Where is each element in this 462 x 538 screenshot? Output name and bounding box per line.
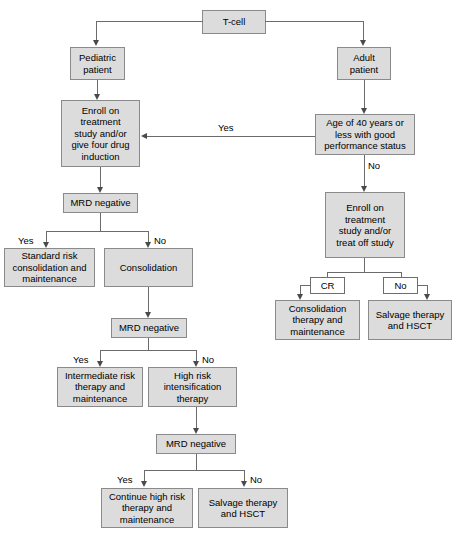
node-intermediate-risk: Intermediate risk therapy and maintenanc… [57,367,143,407]
node-mrd-negative-3: MRD negative [156,434,236,454]
edge-pediatric-to-enroll [97,80,98,94]
edge-mrd3-bus [144,470,244,471]
arrow-mrd3-no [241,481,247,487]
edge-label-yes-mrd2: Yes [73,355,89,365]
edge-cr-out [300,285,310,286]
edge-enroll-adult-stem [364,258,365,272]
edge-age40-yes-to-enroll [147,136,315,137]
node-t-cell: T-cell [202,10,266,34]
edge-consolidation-to-mrd2 [148,287,149,312]
edge-label-no-mrd3: No [250,475,262,485]
edge-no-down [427,285,428,294]
arrow-mrd3-yes [141,481,147,487]
edge-adult-decision-bus [327,272,401,273]
edge-mrd1-stem [100,213,101,231]
edge-mrd2-no-drop [196,350,197,361]
edge-label-yes-age: Yes [218,123,234,133]
edge-highrisk-to-mrd3 [196,407,197,428]
edge-enroll-to-mrd1 [100,167,101,187]
arrow-to-adult [360,40,366,46]
edge-label-no-mrd1: No [154,236,166,246]
node-standard-risk: Standard risk consolidation and maintena… [4,248,95,287]
edge-label-yes-mrd1: Yes [18,236,34,246]
node-salvage-therapy-1: Salvage therapy and HSCT [368,300,452,340]
arrow-to-pediatric [93,40,99,46]
node-pediatric-patient: Pediatric patient [70,47,125,80]
edge-tcell-right-bus [265,21,363,22]
edge-mrd1-no-drop [148,231,149,242]
edge-no-out [418,285,427,286]
node-consolidation-therapy: Consolidation therapy and maintenance [275,300,360,340]
edge-tcell-right-drop [363,21,364,40]
node-mrd-negative-2: MRD negative [111,318,187,338]
node-enroll-pediatric: Enroll on treatment study and/or give fo… [61,100,140,167]
edge-mrd3-yes-drop [144,470,145,481]
node-no: No [383,277,418,294]
edge-label-no-mrd2: No [202,355,214,365]
flowchart-canvas: T-cell Pediatric patient Adult patient E… [0,0,462,538]
edge-tcell-left-drop [96,21,97,40]
edge-cr-down [300,285,301,294]
arrow-yes-to-enroll [141,133,147,139]
node-high-risk: High risk intensification therapy [148,367,237,407]
node-continue-high-risk: Continue high risk therapy and maintenan… [101,488,193,528]
edge-mrd1-yes-drop [46,231,47,242]
edge-mrd1-bus [46,231,148,232]
node-cr: CR [310,277,345,294]
node-age-40: Age of 40 years or less with good perfor… [315,114,415,155]
node-salvage-therapy-2: Salvage therapy and HSCT [198,488,288,528]
edge-mrd3-stem [196,454,197,470]
node-consolidation: Consolidation [104,248,193,287]
node-enroll-adult: Enroll on treatment study and/or treat o… [325,192,405,258]
edge-label-no-age: No [368,161,380,171]
edge-tcell-left-bus [96,21,203,22]
edge-mrd3-no-drop [244,470,245,481]
edge-adult-to-age40 [364,80,365,108]
edge-mrd2-stem [148,338,149,350]
node-adult-patient: Adult patient [337,47,391,80]
edge-age40-no-down [364,155,365,186]
edge-mrd2-yes-drop [100,350,101,361]
edge-label-yes-mrd3: Yes [117,475,133,485]
edge-mrd2-bus [100,350,196,351]
node-mrd-negative-1: MRD negative [63,193,138,213]
